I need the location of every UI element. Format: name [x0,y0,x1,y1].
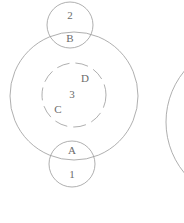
venn-diagram-svg: 2 B D 3 C A 1 [0,0,184,223]
label-inner-center: 3 [69,88,75,100]
label-outer-top-below: B [66,32,73,44]
label-outer-bottom-above: A [68,144,76,156]
label-outer-top-above: 2 [67,9,73,21]
label-inner-upper-right: D [81,72,89,84]
right-partial-circle [166,42,184,202]
label-inner-lower-left: C [54,103,61,115]
label-outer-bottom-below: 1 [69,168,75,180]
venn-diagram-canvas: 2 B D 3 C A 1 [0,0,184,223]
